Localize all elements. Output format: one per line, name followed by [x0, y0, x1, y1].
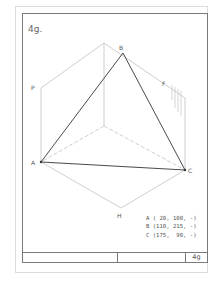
title-block-sheet-number: 4g	[186, 253, 207, 262]
coordinate-list: A ( 20, 100, -) B (110, 215, -) C (175, …	[146, 214, 197, 239]
point-a-marker	[40, 161, 42, 163]
title-block-cell-2	[118, 253, 185, 262]
coord-c: C (175, 90, -)	[146, 231, 197, 239]
title-block-cell-1	[23, 253, 117, 262]
drawing-sheet: 4g. P B F A C H A ( 20, 100, -) B (110, …	[0, 0, 224, 281]
coord-b: B (110, 215, -)	[146, 222, 197, 230]
label-c: C	[188, 168, 192, 174]
label-h: H	[117, 213, 122, 219]
point-c-marker	[184, 169, 186, 171]
triangle-abc	[41, 53, 185, 170]
label-f: F	[162, 81, 165, 87]
sheet-title: 4g.	[28, 24, 42, 34]
construction-hexagon	[41, 43, 185, 208]
label-a: A	[31, 160, 35, 166]
label-b: B	[119, 45, 123, 51]
coord-a: A ( 20, 100, -)	[146, 214, 197, 222]
label-p: P	[31, 85, 35, 91]
